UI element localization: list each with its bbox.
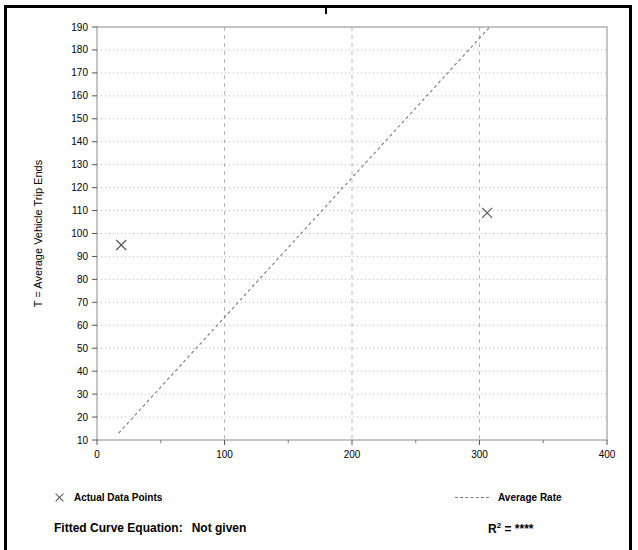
svg-text:20: 20	[77, 412, 89, 423]
svg-text:80: 80	[77, 274, 89, 285]
svg-text:170: 170	[71, 67, 88, 78]
svg-text:90: 90	[77, 251, 89, 262]
svg-text:70: 70	[77, 297, 89, 308]
dashed-line-icon	[455, 497, 489, 499]
svg-text:110: 110	[72, 205, 88, 216]
scatter-chart: 1020304050607080901001101201301401501601…	[0, 0, 638, 470]
legend-label-actual-data-points: Actual Data Points	[74, 492, 162, 503]
svg-text:160: 160	[71, 90, 88, 101]
svg-text:400: 400	[599, 449, 616, 460]
svg-text:120: 120	[71, 182, 88, 193]
svg-text:40: 40	[77, 366, 89, 377]
svg-text:100: 100	[71, 228, 88, 239]
svg-text:100: 100	[216, 449, 233, 460]
svg-text:T = Average Vehicle Trip Ends: T = Average Vehicle Trip Ends	[32, 159, 44, 307]
svg-text:190: 190	[71, 22, 88, 33]
legend-label-average-rate: Average Rate	[498, 492, 562, 503]
r-squared-statistic: R2 = ****	[488, 521, 534, 536]
x-marker-icon	[54, 492, 65, 503]
svg-text:0: 0	[94, 449, 100, 460]
svg-text:130: 130	[71, 159, 88, 170]
r-squared-expression: R2 = ****	[488, 521, 534, 536]
fitted-curve-equation-value: Not given	[192, 521, 247, 535]
plot-canvas: 1020304050607080901001101201301401501601…	[0, 0, 638, 470]
svg-text:180: 180	[71, 44, 88, 55]
r-squared-equals: =	[504, 522, 511, 536]
r-squared-exponent: 2	[497, 521, 501, 530]
legend-item-average-rate: Average Rate	[455, 492, 562, 503]
svg-text:140: 140	[71, 136, 88, 147]
svg-text:300: 300	[471, 449, 488, 460]
svg-text:200: 200	[344, 449, 361, 460]
svg-text:60: 60	[77, 320, 89, 331]
r-squared-value: ****	[515, 522, 534, 536]
fitted-curve-equation: Fitted Curve Equation: Not given	[54, 521, 246, 535]
svg-text:10: 10	[77, 435, 89, 446]
footer-row: Fitted Curve Equation: Not given R2 = **…	[0, 521, 638, 541]
svg-text:150: 150	[71, 113, 88, 124]
svg-text:30: 30	[77, 389, 89, 400]
legend-row: Actual Data Points Average Rate	[0, 492, 638, 512]
legend-item-actual-data-points: Actual Data Points	[54, 492, 162, 503]
fitted-curve-equation-label: Fitted Curve Equation:	[54, 521, 183, 535]
svg-text:50: 50	[77, 343, 89, 354]
r-squared-label: R	[488, 522, 497, 536]
